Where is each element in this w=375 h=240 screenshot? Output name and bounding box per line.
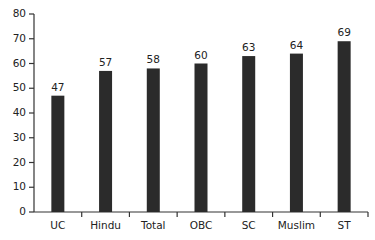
y-tick-label: 10 bbox=[13, 180, 26, 192]
bar-hindu bbox=[99, 71, 112, 212]
bar-total bbox=[147, 68, 160, 212]
x-tick-label: SC bbox=[242, 219, 256, 231]
y-tick-label: 50 bbox=[13, 81, 26, 93]
y-tick-label: 0 bbox=[19, 205, 26, 217]
x-tick-label: Muslim bbox=[278, 219, 315, 231]
value-label: 64 bbox=[290, 39, 304, 51]
y-axis: 01020304050607080 bbox=[13, 7, 34, 217]
x-tick-label: UC bbox=[50, 219, 65, 231]
y-tick-label: 30 bbox=[13, 131, 26, 143]
bar-obc bbox=[195, 64, 208, 213]
bar-chart: 01020304050607080 UCHinduTotalOBCSCMusli… bbox=[0, 0, 375, 240]
bars: 47575860636469 bbox=[51, 26, 351, 212]
x-axis: UCHinduTotalOBCSCMuslimST bbox=[34, 212, 368, 231]
value-label: 60 bbox=[194, 49, 207, 61]
x-tick-label: OBC bbox=[190, 219, 213, 231]
x-tick-label: Hindu bbox=[90, 219, 121, 231]
y-tick-label: 20 bbox=[13, 156, 26, 168]
bar-sc bbox=[242, 56, 255, 212]
y-tick-label: 70 bbox=[13, 32, 26, 44]
value-label: 58 bbox=[147, 53, 160, 65]
bar-muslim bbox=[290, 54, 303, 212]
value-label: 47 bbox=[51, 81, 64, 93]
bar-uc bbox=[51, 96, 64, 212]
x-tick-label: ST bbox=[338, 219, 352, 231]
value-label: 57 bbox=[99, 56, 112, 68]
y-tick-label: 40 bbox=[13, 106, 26, 118]
bar-st bbox=[338, 41, 351, 212]
value-label: 63 bbox=[242, 41, 255, 53]
y-tick-label: 60 bbox=[13, 57, 26, 69]
y-tick-label: 80 bbox=[13, 7, 26, 19]
value-label: 69 bbox=[337, 26, 350, 38]
x-tick-label: Total bbox=[140, 219, 166, 231]
